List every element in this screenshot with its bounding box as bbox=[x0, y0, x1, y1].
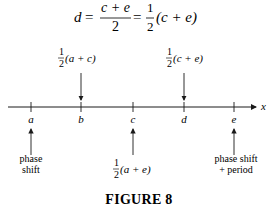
fraction-denominator: 2 bbox=[114, 169, 119, 180]
figure-caption: FIGURE 8 bbox=[105, 192, 172, 207]
annotation-below-a: phase shift bbox=[20, 129, 43, 175]
tick-label-b: b bbox=[78, 113, 84, 125]
annotation-expression: (c + e) bbox=[173, 52, 203, 65]
annotation-expression: (a + c) bbox=[65, 52, 96, 65]
fraction-numerator: 1 bbox=[167, 46, 172, 57]
annotation-line2: + period bbox=[219, 164, 253, 175]
annotation-below-e: phase shift + period bbox=[214, 129, 257, 175]
annotation-below-c: 1 2 (a + e) bbox=[113, 129, 151, 180]
fraction-numerator: 1 bbox=[114, 157, 119, 168]
annotation-line1: phase bbox=[20, 153, 43, 164]
figure-diagram: d = c + e 2 = 1 2 (c + e) 1 2 (a + c) 1 … bbox=[0, 0, 279, 213]
equation-tail: (c + e) bbox=[156, 9, 197, 26]
tick-label-e: e bbox=[232, 113, 237, 125]
annotation-line1: phase shift bbox=[214, 153, 257, 164]
equation-frac1-numerator: c + e bbox=[101, 0, 130, 15]
fraction-denominator: 2 bbox=[167, 58, 172, 69]
axis-label: x bbox=[260, 100, 266, 112]
annotation-above-d: 1 2 (c + e) bbox=[166, 46, 203, 100]
equation-frac2-numerator: 1 bbox=[147, 0, 154, 15]
tick-label-d: d bbox=[181, 113, 187, 125]
equation: d = c + e 2 = 1 2 (c + e) bbox=[74, 0, 197, 34]
annotation-expression: (a + e) bbox=[120, 163, 151, 176]
tick-label-a: a bbox=[28, 113, 34, 125]
equation-equals: = bbox=[85, 9, 93, 25]
x-axis: x a b c d e bbox=[8, 100, 266, 125]
equation-equals-2: = bbox=[133, 9, 141, 25]
equation-frac2-denominator: 2 bbox=[147, 19, 154, 34]
fraction-denominator: 2 bbox=[59, 58, 64, 69]
annotation-above-b: 1 2 (a + c) bbox=[58, 46, 96, 100]
tick-label-c: c bbox=[131, 113, 136, 125]
equation-frac1-denominator: 2 bbox=[112, 19, 119, 34]
equation-lhs: d bbox=[74, 9, 82, 25]
fraction-numerator: 1 bbox=[59, 46, 64, 57]
annotation-line2: shift bbox=[22, 164, 40, 175]
